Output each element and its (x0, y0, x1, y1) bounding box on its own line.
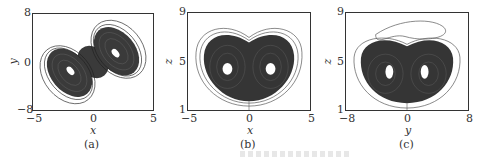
x-tick-mid-a: 0 (90, 113, 97, 124)
z-tick-mid-c: 5 (337, 56, 344, 67)
y-axis-label-c: y (405, 124, 411, 137)
plot-area-c (345, 12, 469, 111)
z-axis-label-b: z (162, 59, 175, 65)
attractor-yz-plot (346, 13, 468, 110)
x-tick-left-b: −5 (181, 113, 197, 124)
x-tick-right-b: 5 (308, 113, 315, 124)
x-tick-mid-b: 0 (246, 113, 253, 124)
x-axis-label-b: x (247, 124, 253, 137)
panel-a: 8 0 −8 −5 0 5 y x (a) (0, 0, 160, 159)
y-axis-label-a: y (7, 58, 20, 64)
caption-c: (c) (399, 138, 414, 151)
x-tick-left-a: −5 (26, 113, 42, 124)
truncated-figure-caption (240, 151, 350, 157)
caption-b: (b) (240, 138, 256, 151)
caption-a: (a) (84, 138, 99, 151)
z-tick-top-b: 9 (179, 6, 186, 17)
y-tick-left-c: −8 (339, 113, 355, 124)
z-tick-mid-b: 5 (179, 56, 186, 67)
y-tick-mid-a: 0 (24, 57, 31, 68)
z-axis-label-c: z (321, 59, 334, 65)
panel-c: 9 5 1 −8 0 8 z y (c) (319, 0, 479, 159)
attractor-xz-plot (188, 13, 310, 110)
x-axis-label-a: x (90, 124, 96, 137)
y-tick-top-a: 8 (24, 7, 31, 18)
plot-area-a (32, 13, 154, 111)
plot-area-b (187, 12, 311, 111)
x-tick-right-a: 5 (150, 113, 157, 124)
attractor-xy-plot (33, 14, 153, 110)
z-tick-top-c: 9 (337, 6, 344, 17)
panel-b: 9 5 1 −5 0 5 z x (b) (160, 0, 320, 159)
y-tick-right-c: 8 (466, 113, 473, 124)
y-tick-mid-c: 0 (404, 113, 411, 124)
